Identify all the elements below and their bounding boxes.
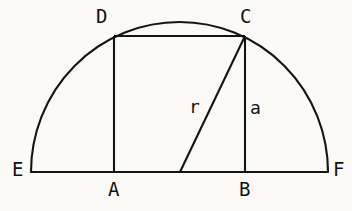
measure-label-radius: r: [189, 98, 200, 116]
vertex-label-d: D: [96, 7, 107, 26]
vertex-label-f: F: [333, 160, 344, 179]
semicircle-arc: [31, 22, 328, 172]
vertex-label-c: C: [240, 7, 251, 26]
vertex-label-b: B: [239, 180, 250, 199]
geometry-diagram: D C E F A B r a: [0, 0, 352, 211]
figure-canvas: [0, 0, 352, 211]
measure-label-height: a: [250, 99, 261, 117]
vertex-label-a: A: [108, 180, 119, 199]
vertex-label-e: E: [12, 160, 23, 179]
